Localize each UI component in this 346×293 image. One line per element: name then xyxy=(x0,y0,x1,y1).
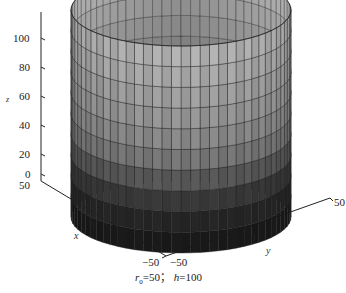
y-tick-label: −50 xyxy=(170,257,187,268)
caption-h-value: =100 xyxy=(179,271,202,283)
z-axis-label: z xyxy=(6,96,9,104)
z-tick-label: 20 xyxy=(19,149,30,160)
z-tick-label: 100 xyxy=(13,33,30,44)
cylinder-surface-plot: 100 80 60 40 20 0 z 50 0 −50 x −50 0 50 … xyxy=(0,0,346,293)
z-tick-label: 80 xyxy=(19,62,30,73)
x-tick-label: −50 xyxy=(142,257,159,268)
z-tick-label: 60 xyxy=(19,91,30,102)
x-tick-label: 50 xyxy=(19,180,30,191)
y-tick-label: 0 xyxy=(250,232,256,243)
plot-canvas xyxy=(0,0,346,293)
caption-r-value: =50； xyxy=(143,271,174,283)
x-tick-label: 0 xyxy=(89,221,95,232)
z-tick-label: 40 xyxy=(19,120,30,131)
x-axis-label: x xyxy=(74,231,78,241)
y-tick-label: 50 xyxy=(334,197,345,208)
figure-caption: r0=50； h=100 xyxy=(135,268,202,286)
y-axis-label: y xyxy=(266,246,270,256)
cylinder-mesh xyxy=(71,0,291,253)
